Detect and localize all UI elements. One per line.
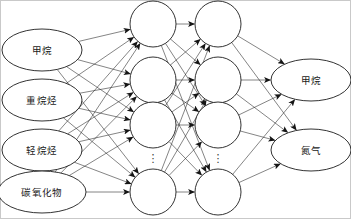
input-node-3: 轻烷烃 [2, 129, 82, 171]
hidden-layer-1-nodes: ⋮ [130, 1, 176, 215]
input-node-1: 甲烷 [2, 29, 82, 71]
connection-edge [239, 94, 281, 115]
input-node-label: 碳氧化物 [21, 187, 63, 198]
hidden1-node-3 [130, 102, 176, 148]
output-node-1: 甲烷 [271, 59, 351, 101]
hidden-layer-2-nodes: ⋮ [195, 1, 241, 215]
connection-edge [74, 162, 131, 183]
connection-edge [78, 60, 131, 74]
network-canvas: 甲烷重烷烃轻烷烃碳氧化物 ⋮ ⋮ 甲烷氮气 [0, 0, 351, 219]
input-layer-nodes: 甲烷重烷烃轻烷烃碳氧化物 [0, 29, 86, 213]
hidden2-node-ellipsis: ⋮ [213, 152, 224, 165]
output-node-label: 甲烷 [301, 75, 322, 86]
output-node-2: 氮气 [271, 129, 351, 171]
hidden1-node-2 [130, 57, 176, 103]
connection-edge [239, 164, 280, 183]
output-layer-nodes: 甲烷氮气 [271, 59, 351, 171]
connection-edge [79, 108, 130, 120]
input-node-label: 甲烷 [32, 45, 53, 56]
input-node-2: 重烷烃 [2, 79, 82, 121]
hidden2-node-3 [195, 102, 241, 148]
hidden1-node-1 [130, 1, 176, 47]
input-node-label: 重烷烃 [26, 95, 57, 106]
connection-edge [240, 131, 275, 140]
hidden2-node-1 [195, 1, 241, 47]
input-node-4: 碳氧化物 [0, 171, 86, 213]
hidden1-node-4 [130, 169, 176, 215]
connection-edge [236, 94, 287, 133]
hidden1-node-ellipsis: ⋮ [148, 152, 159, 165]
hidden2-node-4 [195, 169, 241, 215]
hidden2-node-2 [195, 57, 241, 103]
connection-edge [80, 84, 130, 93]
connection-edge [79, 130, 130, 142]
input-node-label: 轻烷烃 [26, 145, 57, 156]
neural-network-diagram: 甲烷重烷烃轻烷烃碳氧化物 ⋮ ⋮ 甲烷氮气 [0, 0, 351, 219]
connection-edge [79, 29, 131, 41]
output-node-label: 氮气 [301, 145, 322, 156]
